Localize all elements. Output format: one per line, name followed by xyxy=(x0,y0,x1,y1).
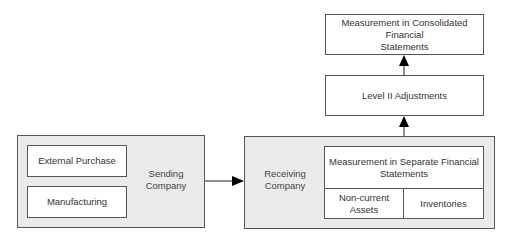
arrow-level2-to-consolidated xyxy=(399,55,409,75)
arrow-separate-to-level2 xyxy=(399,116,409,136)
arrow-sending-to-receiving xyxy=(205,176,244,186)
connector-arrows xyxy=(0,0,508,238)
